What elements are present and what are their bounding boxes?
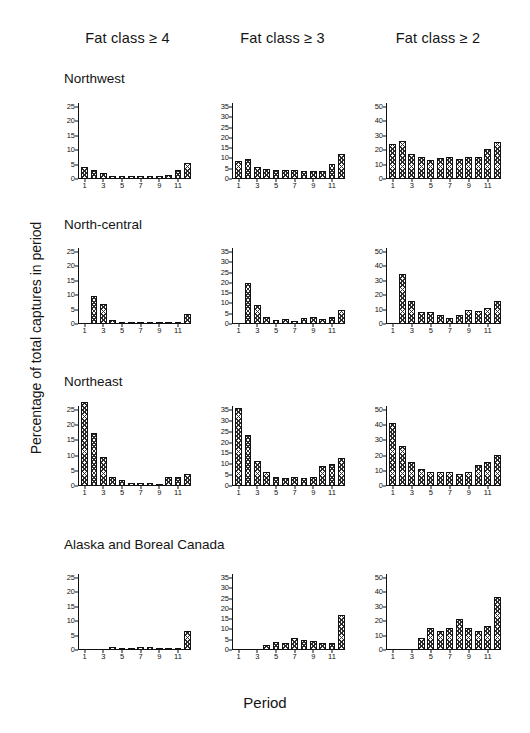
- x-tick-label: 3: [101, 182, 105, 190]
- row-label-northeast: Northeast: [64, 374, 123, 389]
- bar: [128, 322, 135, 324]
- bar: [494, 597, 501, 650]
- x-tick-label: 9: [467, 653, 471, 661]
- x-tick-label: 3: [101, 327, 105, 335]
- x-tick-label: 7: [139, 182, 143, 190]
- bar: [301, 171, 308, 179]
- bar-series: [386, 578, 500, 650]
- bar: [437, 315, 444, 324]
- x-tick-label: 11: [484, 182, 492, 190]
- chart-panel: 010203040501357911: [386, 578, 500, 650]
- y-tick-label: 25: [67, 248, 78, 256]
- x-tick-label: 1: [83, 182, 87, 190]
- x-tick-label: 11: [484, 489, 492, 497]
- bar: [291, 638, 298, 650]
- x-tick-label: 11: [174, 327, 182, 335]
- bar: [175, 477, 182, 486]
- bar: [291, 477, 298, 486]
- x-tick-label: 7: [448, 653, 452, 661]
- y-tick-label: 25: [221, 269, 232, 277]
- bar: [310, 171, 317, 179]
- x-tick-label: 5: [120, 182, 124, 190]
- bar: [245, 159, 252, 179]
- chart-panel: 051015202530351357911: [232, 252, 344, 324]
- chart-panel: 051015202530351357911: [232, 410, 344, 486]
- bar: [175, 170, 182, 179]
- x-tick-label: 5: [429, 489, 433, 497]
- bar: [408, 301, 415, 324]
- chart-panel: 010203040501357911: [386, 410, 500, 486]
- bar: [437, 631, 444, 650]
- bar: [165, 477, 172, 486]
- y-tick-label: 30: [375, 132, 386, 140]
- bar: [494, 142, 501, 179]
- y-tick-label: 10: [221, 155, 232, 163]
- plot-area: 010203040501357911: [386, 107, 500, 179]
- bar: [456, 474, 463, 486]
- bar: [484, 626, 491, 650]
- y-tick-label: 0: [379, 482, 386, 490]
- bar: [91, 433, 98, 486]
- bar: [184, 631, 191, 650]
- row-label-alaska-boreal-canada: Alaska and Boreal Canada: [64, 537, 225, 552]
- bar: [165, 175, 172, 179]
- bar: [427, 472, 434, 486]
- x-tick-label: 1: [391, 327, 395, 335]
- bar: [254, 167, 261, 179]
- x-tick-label: 3: [410, 182, 414, 190]
- x-tick-label: 1: [237, 182, 241, 190]
- y-tick-label: 15: [221, 144, 232, 152]
- x-tick-label: 1: [391, 653, 395, 661]
- x-tick-label: 11: [328, 327, 336, 335]
- bar: [475, 311, 482, 324]
- x-tick-label: 9: [467, 182, 471, 190]
- y-tick-label: 30: [375, 603, 386, 611]
- x-tick-label: 11: [174, 182, 182, 190]
- bar: [418, 469, 425, 486]
- bar: [282, 170, 289, 179]
- column-headers: Fat class ≥ 4 Fat class ≥ 3 Fat class ≥ …: [0, 30, 530, 54]
- x-tick-label: 1: [391, 182, 395, 190]
- y-tick-label: 25: [67, 574, 78, 582]
- y-tick-label: 10: [221, 300, 232, 308]
- y-tick-label: 15: [221, 450, 232, 458]
- y-tick-label: 5: [71, 467, 78, 475]
- x-tick-label: 3: [410, 327, 414, 335]
- bar: [184, 474, 191, 486]
- x-tick-label: 11: [484, 653, 492, 661]
- bar-series: [232, 107, 344, 179]
- bar: [301, 640, 308, 650]
- bar: [81, 402, 88, 486]
- bar: [282, 478, 289, 486]
- bar: [91, 170, 98, 179]
- bar: [147, 647, 154, 650]
- y-tick-label: 20: [67, 118, 78, 126]
- bar: [329, 643, 336, 650]
- y-tick-label: 50: [375, 103, 386, 111]
- x-tick-label: 1: [83, 489, 87, 497]
- x-tick-label: 3: [410, 489, 414, 497]
- y-tick-label: 30: [221, 114, 232, 122]
- bar: [109, 176, 116, 179]
- y-tick-label: 20: [221, 439, 232, 447]
- bar-series: [78, 410, 190, 486]
- y-tick-label: 5: [225, 310, 232, 318]
- y-tick-label: 10: [375, 632, 386, 640]
- bar: [109, 477, 116, 486]
- bar: [273, 642, 280, 650]
- bar: [475, 631, 482, 650]
- bar: [329, 164, 336, 179]
- bar-series: [386, 410, 500, 486]
- bar-series: [232, 252, 344, 324]
- x-tick-label: 3: [255, 182, 259, 190]
- y-tick-label: 20: [375, 146, 386, 154]
- x-tick-label: 11: [484, 327, 492, 335]
- bar: [319, 171, 326, 179]
- figure-panel-grid: Fat class ≥ 4 Fat class ≥ 3 Fat class ≥ …: [0, 0, 530, 733]
- y-tick-label: 35: [221, 406, 232, 414]
- y-tick-label: 5: [225, 471, 232, 479]
- y-tick-label: 20: [221, 134, 232, 142]
- y-tick-label: 10: [375, 467, 386, 475]
- x-tick-label: 11: [328, 182, 336, 190]
- column-header-fat-class-2: Fat class ≥ 2: [363, 30, 513, 46]
